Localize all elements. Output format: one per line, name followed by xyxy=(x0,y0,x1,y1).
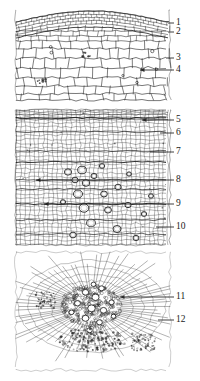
figure-label-4: 4 xyxy=(176,65,181,75)
leader-arrow-8 xyxy=(36,178,41,182)
figure-label-3: 3 xyxy=(176,53,181,63)
figure-label-10: 10 xyxy=(176,222,186,232)
figure-label-5: 5 xyxy=(176,115,181,125)
figure-label-6: 6 xyxy=(176,128,181,138)
figure-label-12: 12 xyxy=(176,315,186,325)
figure-label-11: 11 xyxy=(176,292,185,302)
micrograph-artwork xyxy=(0,0,200,381)
figure-label-9: 9 xyxy=(176,199,181,209)
figure-label-2: 2 xyxy=(176,27,181,37)
figure-label-8: 8 xyxy=(176,175,181,185)
figure-label-7: 7 xyxy=(176,147,181,157)
micrograph-figure: 123456789101112 xyxy=(0,0,200,381)
